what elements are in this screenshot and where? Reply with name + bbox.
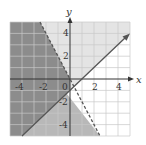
x-tick-label: 2 [92, 82, 98, 92]
y-tick-label: -4 [59, 120, 68, 130]
y-axis-arrow-icon [68, 17, 73, 23]
x-tick-label: 0 [62, 82, 68, 92]
x-tick-label: -2 [39, 82, 48, 92]
x-axis-label: x [136, 74, 142, 85]
x-axis-arrow-icon [128, 77, 134, 82]
x-tick-label: -4 [15, 82, 24, 92]
y-axis-label: y [65, 6, 72, 17]
y-tick-label: -2 [59, 97, 68, 107]
x-tick-label: 4 [116, 82, 122, 92]
y-tick-label: 2 [63, 51, 69, 61]
y-tick-label: 4 [63, 28, 69, 38]
inequality-graph: x y -4 -2 0 2 4 4 2 -2 -4 [0, 0, 146, 145]
